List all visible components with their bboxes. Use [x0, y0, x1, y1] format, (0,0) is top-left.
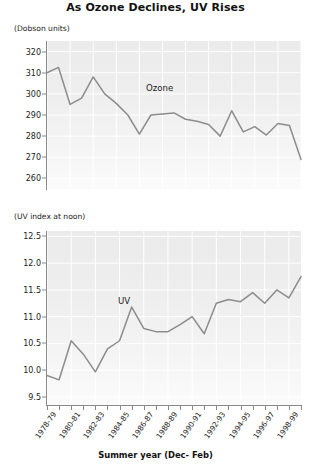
- data-line: [47, 277, 301, 380]
- ozone-series-annotation: Ozone: [146, 83, 173, 93]
- y-tick-label: 300: [26, 89, 41, 98]
- x-tick-label: 1988-89: [154, 410, 179, 440]
- uv-plot-area: [47, 231, 301, 405]
- y-tick-label: 310: [26, 68, 41, 77]
- x-tick-label: 1984-85: [106, 410, 131, 440]
- page-title: As Ozone Declines, UV Rises: [0, 1, 311, 14]
- y-tick-label: 12.0: [23, 259, 41, 268]
- x-tick-label: 1990-91: [178, 410, 203, 440]
- ozone-y-axis-labels: 320310300290280270260: [1, 41, 41, 189]
- x-tick-label: 1978-79: [33, 410, 58, 440]
- ozone-plot-area: [47, 41, 301, 189]
- y-tick-label: 10.5: [23, 339, 41, 348]
- y-tick-label: 11.0: [23, 312, 41, 321]
- ozone-y-axis-line: [46, 41, 47, 190]
- y-tick-label: 270: [26, 153, 41, 162]
- y-tick-label: 11.5: [23, 285, 41, 294]
- ozone-unit-label: (Dobson units): [14, 24, 70, 33]
- y-tick-label: 260: [26, 174, 41, 183]
- ozone-line-series: [47, 41, 301, 189]
- uv-y-axis-line: [46, 231, 47, 406]
- y-tick-label: 12.5: [23, 232, 41, 241]
- y-tick-label: 280: [26, 132, 41, 141]
- chart-figure: As Ozone Declines, UV Rises (Dobson unit…: [0, 0, 311, 467]
- uv-unit-label: (UV index at noon): [14, 212, 85, 221]
- uv-line-series: [47, 231, 301, 405]
- uv-y-axis-labels: 12.512.011.511.010.510.09.5: [1, 231, 41, 405]
- x-tick-label: 1982-83: [82, 410, 107, 440]
- x-tick-label: 1980-81: [57, 410, 82, 440]
- data-line: [47, 67, 301, 159]
- y-tick-label: 320: [26, 47, 41, 56]
- x-tick-label: 1992-93: [203, 410, 228, 440]
- x-axis-title: Summer year (Dec- Feb): [0, 450, 311, 460]
- y-tick-label: 290: [26, 111, 41, 120]
- x-tick-label: 1986-87: [130, 410, 155, 440]
- x-axis-labels: 1978-791980-811982-831984-851986-871988-…: [47, 410, 301, 450]
- x-tick-label: 1996-97: [251, 410, 276, 440]
- y-tick-label: 10.0: [23, 366, 41, 375]
- x-tick-mark: [301, 406, 302, 410]
- x-tick-label: 1994-95: [227, 410, 252, 440]
- uv-series-annotation: UV: [118, 296, 130, 306]
- x-tick-label: 1998-99: [275, 410, 300, 440]
- y-tick-label: 9.5: [28, 392, 41, 401]
